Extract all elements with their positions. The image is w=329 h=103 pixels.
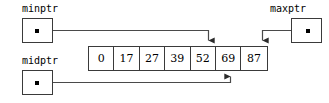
array-cell: 87 [241, 47, 266, 70]
array-cell: 0 [89, 47, 114, 70]
wire-minptr [37, 31, 209, 41]
array-cell: 27 [140, 47, 165, 70]
array-cell: 69 [216, 47, 241, 70]
array-cell: 52 [191, 47, 216, 70]
maxptr-box[interactable] [291, 18, 322, 43]
array-cell: 17 [114, 47, 139, 70]
minptr-label: minptr [22, 3, 58, 15]
midptr-dot [35, 81, 39, 85]
maxptr-label: maxptr [270, 3, 306, 15]
minptr-box[interactable] [22, 18, 53, 43]
sorted-array: 0172739526987 [88, 46, 268, 71]
wire-midptr [37, 77, 231, 83]
minptr-dot [35, 29, 39, 33]
maxptr-dot [306, 29, 310, 33]
diagram-canvas: minptr maxptr midptr 0172739526987 [0, 0, 329, 103]
midptr-box[interactable] [22, 70, 53, 95]
array-cell: 39 [165, 47, 190, 70]
midptr-label: midptr [22, 55, 58, 67]
